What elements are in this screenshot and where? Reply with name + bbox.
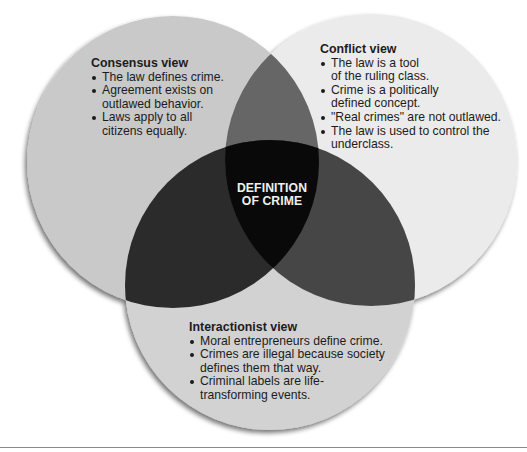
consensus-bullet: Laws apply to all citizens equally. [91, 111, 241, 138]
interactionist-view-title: Interactionist view [189, 321, 389, 335]
consensus-view-block: Consensus view The law defines crime. Ag… [91, 57, 241, 139]
consensus-bullet: Agreement exists on outlawed behavior. [91, 84, 241, 111]
center-label-line2: OF CRIME [222, 195, 322, 208]
center-label: DEFINITION OF CRIME [222, 182, 322, 209]
consensus-bullet: The law defines crime. [91, 71, 241, 85]
conflict-view-block: Conflict view The law is a tool of the r… [320, 43, 505, 152]
conflict-view-list: The law is a tool of the ruling class. C… [320, 57, 505, 152]
conflict-bullet: "Real crimes" are not outlawed. [320, 111, 505, 125]
consensus-view-list: The law defines crime. Agreement exists … [91, 71, 241, 139]
conflict-bullet: The law is used to control the underclas… [320, 125, 505, 152]
interactionist-bullet: Crimes are illegal because society defin… [189, 348, 389, 375]
interactionist-view-list: Moral entrepreneurs define crime. Crimes… [189, 335, 389, 403]
bottom-divider [0, 447, 527, 448]
conflict-bullet: The law is a tool of the ruling class. [320, 57, 505, 84]
conflict-view-title: Conflict view [320, 43, 505, 57]
interactionist-view-block: Interactionist view Moral entrepreneurs … [189, 321, 389, 403]
conflict-bullet: Crime is a politically defined concept. [320, 84, 505, 111]
interactionist-bullet: Moral entrepreneurs define crime. [189, 335, 389, 349]
center-label-line1: DEFINITION [222, 182, 322, 195]
interactionist-bullet: Criminal labels are life- transforming e… [189, 375, 389, 402]
consensus-view-title: Consensus view [91, 57, 241, 71]
